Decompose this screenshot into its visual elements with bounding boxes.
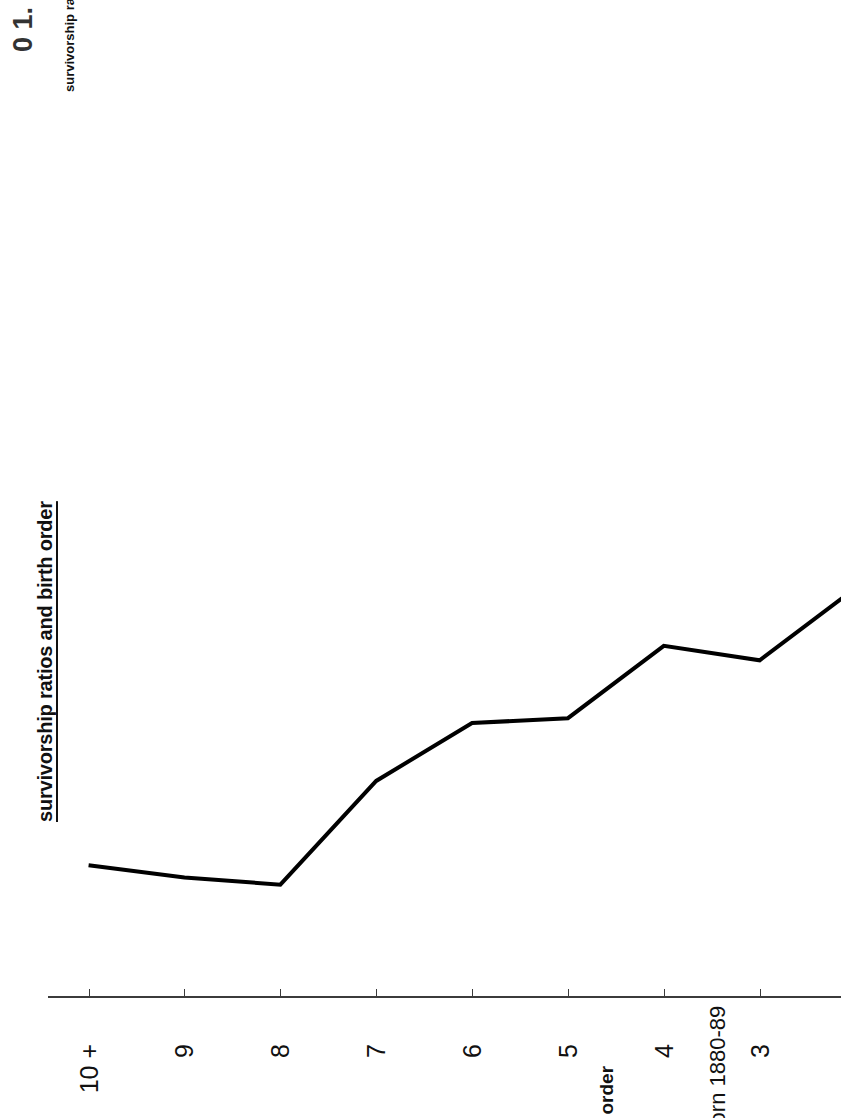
order-tick-label: 8 bbox=[266, 1044, 295, 1058]
figure-subtitle: mothers born 1880-89 bbox=[705, 1006, 731, 1118]
figure-page: survivorship ratios and birth order 0 1.… bbox=[0, 0, 841, 1118]
rotated-figure-wrapper: survivorship ratios and birth order 0 1.… bbox=[0, 0, 841, 1118]
order-tick-label: 3 bbox=[745, 1044, 774, 1058]
order-tick-label: 4 bbox=[649, 1044, 678, 1058]
value-axis-title: survivorship ratio bbox=[62, 0, 77, 92]
plot-area: 505560657075 12345678910 + bbox=[48, 395, 841, 998]
order-axis-title: birth order bbox=[596, 1066, 618, 1118]
survivorship-line bbox=[89, 491, 841, 884]
figure-canvas: survivorship ratios and birth order 0 1.… bbox=[0, 0, 841, 1118]
order-tick-label: 10 + bbox=[74, 1044, 103, 1093]
order-tick-label: 9 bbox=[170, 1044, 199, 1058]
order-tick-label: 6 bbox=[458, 1044, 487, 1058]
order-tick-label: 7 bbox=[362, 1044, 391, 1058]
order-tick-label: 5 bbox=[553, 1044, 582, 1058]
clipped-figure-number: 0 1. bbox=[8, 8, 38, 52]
data-series-layer bbox=[48, 395, 841, 998]
